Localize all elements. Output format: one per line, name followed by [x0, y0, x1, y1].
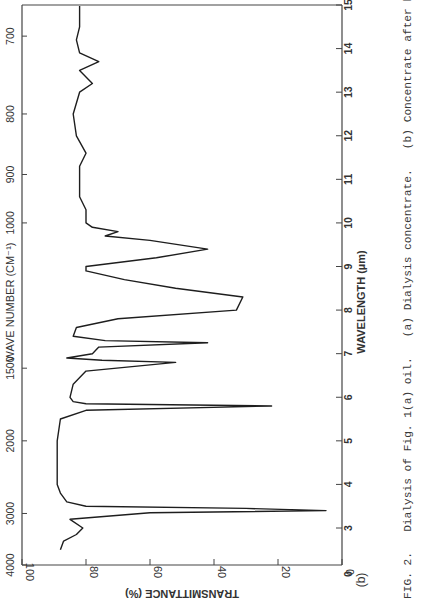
plot-frame — [22, 5, 342, 565]
wavelength-tick-label: 15 — [342, 0, 354, 11]
wavelength-tick-label: 13 — [342, 86, 354, 98]
caption-line: FIG. 2. Dialysis of Fig. 1(a) oil. (a) D… — [400, 0, 418, 599]
wavelength-tick-label: 10 — [342, 217, 354, 229]
wavelength-tick-label: 12 — [342, 130, 354, 142]
spectrum-line — [57, 6, 326, 550]
transmittance-ticks — [22, 559, 342, 565]
wavelength-tick-label: 7 — [342, 351, 354, 357]
transmittance-tick-label: 20 — [280, 566, 292, 578]
wavelength-tick-label: 3 — [342, 525, 354, 531]
transmittance-axis-title: TRANSMITTANCE (%) — [125, 588, 239, 599]
wavenumber-tick-label: 900 — [4, 166, 16, 184]
wavelength-tick-label: 8 — [342, 307, 354, 313]
wavenumber-tick-label: 700 — [4, 27, 16, 45]
wavelength-tick-label: 4 — [342, 481, 354, 487]
wavenumber-tick-label: 3000 — [4, 502, 16, 526]
transmittance-tick-label: 80 — [88, 566, 100, 578]
wavenumber-axis-title: WAVE NUMBER (CM⁻¹) — [4, 242, 16, 361]
wavelength-tick-label: 9 — [342, 263, 354, 269]
wavenumber-ticks — [22, 36, 27, 565]
wavenumber-tick-label: 800 — [4, 105, 16, 123]
wavenumber-tick-label: 2000 — [4, 429, 16, 453]
wavenumber-tick-label: 4000 — [4, 553, 16, 577]
transmittance-tick-label: 100 — [24, 563, 36, 581]
transmittance-tick-label: 40 — [216, 566, 228, 578]
wavelength-tick-label: 11 — [342, 174, 354, 185]
wavenumber-tick-label: 1000 — [4, 211, 16, 235]
wavelength-tick-label: 5 — [342, 438, 354, 444]
transmittance-zero-label: 0 — [342, 571, 354, 577]
transmittance-tick-label: 60 — [152, 566, 164, 578]
wavelength-tick-label: 14 — [342, 43, 354, 55]
figure-caption: FIG. 2. Dialysis of Fig. 1(a) oil. (a) D… — [365, 0, 445, 599]
wavelength-tick-labels: 34567891011121314150 — [342, 0, 354, 577]
wavelength-tick-label: 6 — [342, 394, 354, 400]
